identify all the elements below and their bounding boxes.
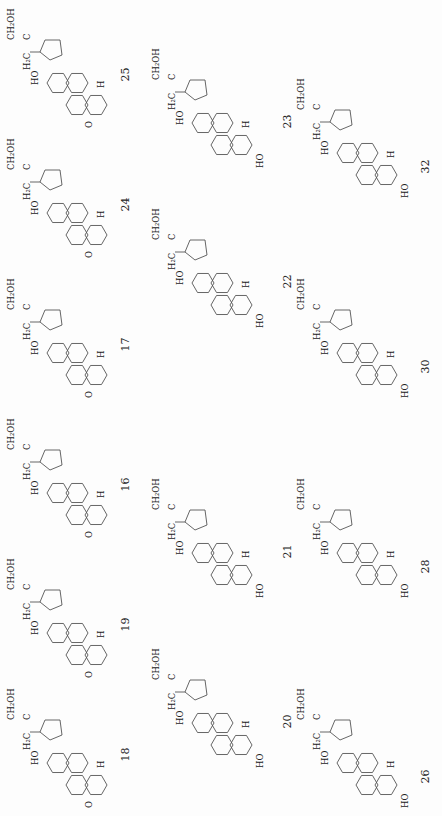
c20-label: C <box>312 103 322 110</box>
h5-label: H <box>96 211 106 218</box>
c20-label: C <box>22 713 32 720</box>
hydroxyl-3-label: HO <box>255 154 265 168</box>
structure-drawing: CH₂OHCH₂CHOHOH <box>290 680 440 816</box>
h5-label: H <box>96 491 106 498</box>
c20-label: C <box>22 33 32 40</box>
steroid-structure-32: CH₂OHCH₂CHOHOH32 <box>290 70 440 206</box>
ketone-label: O <box>84 801 94 808</box>
h5-label: H <box>96 351 106 358</box>
steroid-structure-17: CH₂OHCH₂CHOOH17 <box>0 270 150 406</box>
ch2oh-label: CH₂OH <box>151 48 161 80</box>
h5-label: H <box>241 721 251 728</box>
ch2oh-label: CH₂OH <box>296 478 306 510</box>
ch2oh-label: CH₂OH <box>296 688 306 720</box>
c18-hydroxyl-label: HO <box>30 751 40 765</box>
h5-label: H <box>386 551 396 558</box>
c20-label: C <box>312 503 322 510</box>
ketone-label: O <box>84 121 94 128</box>
c18-label: H₂C <box>22 53 32 70</box>
hydroxyl-3-label: HO <box>400 184 410 198</box>
h5-label: H <box>96 761 106 768</box>
structure-drawing: CH₂OHCH₂CHOHOH <box>145 200 295 336</box>
steroid-structure-18: CH₂OHCH₂CHOOH18 <box>0 680 150 816</box>
structure-drawing: CH₂OHCH₂CHOHOH <box>290 470 440 606</box>
c18-label: H₂C <box>22 603 32 620</box>
steroid-structure-22: CH₂OHCH₂CHOHOH22 <box>145 200 295 336</box>
c18-hydroxyl-label: HO <box>30 621 40 635</box>
c18-label: H₂C <box>22 183 32 200</box>
ketone-label: O <box>84 531 94 538</box>
c20-label: C <box>22 303 32 310</box>
structure-drawing: CH₂OHCH₂CHOHOH <box>145 640 295 776</box>
ch2oh-label: CH₂OH <box>6 8 16 40</box>
ch2oh-label: CH₂OH <box>296 78 306 110</box>
compound-number: 24 <box>119 198 132 212</box>
c20-label: C <box>167 73 177 80</box>
c18-hydroxyl-label: HO <box>175 111 185 125</box>
c18-label: H₂C <box>312 123 322 140</box>
compound-number: 16 <box>119 478 132 492</box>
c18-hydroxyl-label: HO <box>320 541 330 555</box>
steroid-structure-19: CH₂OHCH₂CHOOH19 <box>0 550 150 686</box>
h5-label: H <box>386 351 396 358</box>
h5-label: H <box>96 631 106 638</box>
ch2oh-label: CH₂OH <box>6 138 16 170</box>
c20-label: C <box>312 713 322 720</box>
compound-number: 18 <box>119 748 132 762</box>
ch2oh-label: CH₂OH <box>6 688 16 720</box>
steroid-structure-16: CH₂OHCH₂CHOOH16 <box>0 410 150 546</box>
ch2oh-label: CH₂OH <box>296 278 306 310</box>
c18-hydroxyl-label: HO <box>320 141 330 155</box>
compound-number: 32 <box>419 160 432 174</box>
c18-label: H₂C <box>167 93 177 110</box>
hydroxyl-3-label: HO <box>255 314 265 328</box>
h5-label: H <box>96 81 106 88</box>
compound-number: 25 <box>119 68 132 82</box>
c18-hydroxyl-label: HO <box>30 341 40 355</box>
steroid-structure-25: CH₂OHCH₂CHOOH25 <box>0 0 150 136</box>
ketone-label: O <box>84 251 94 258</box>
c18-hydroxyl-label: HO <box>30 71 40 85</box>
steroid-structure-21: CH₂OHCH₂CHOHOH21 <box>145 470 295 606</box>
compound-number: 17 <box>119 338 132 352</box>
ch2oh-label: CH₂OH <box>6 418 16 450</box>
hydroxyl-3-label: HO <box>255 584 265 598</box>
ch2oh-label: CH₂OH <box>151 648 161 680</box>
c18-label: H₂C <box>167 253 177 270</box>
steroid-structure-24: CH₂OHCH₂CHOOH24 <box>0 130 150 266</box>
c18-label: H₂C <box>22 463 32 480</box>
c18-label: H₂C <box>312 733 322 750</box>
c20-label: C <box>22 163 32 170</box>
c18-hydroxyl-label: HO <box>320 341 330 355</box>
ketone-label: O <box>84 391 94 398</box>
c18-hydroxyl-label: HO <box>320 751 330 765</box>
ch2oh-label: CH₂OH <box>6 278 16 310</box>
hydroxyl-3-label: HO <box>400 584 410 598</box>
c20-label: C <box>312 303 322 310</box>
figure-page: CH₂OHCH₂CHOOH25CH₂OHCH₂CHOOH24CH₂OHCH₂CH… <box>0 0 442 816</box>
compound-number: 26 <box>419 770 432 784</box>
structure-drawing: CH₂OHCH₂CHOHOH <box>145 40 295 176</box>
h5-label: H <box>241 551 251 558</box>
c20-label: C <box>167 673 177 680</box>
c18-label: H₂C <box>312 523 322 540</box>
c18-label: H₂C <box>22 733 32 750</box>
c20-label: C <box>22 583 32 590</box>
hydroxyl-3-label: HO <box>400 384 410 398</box>
c18-hydroxyl-label: HO <box>30 481 40 495</box>
compound-number: 19 <box>119 618 132 632</box>
h5-label: H <box>386 761 396 768</box>
c18-label: H₂C <box>22 323 32 340</box>
ketone-label: O <box>84 671 94 678</box>
ch2oh-label: CH₂OH <box>6 558 16 590</box>
hydroxyl-3-label: HO <box>400 794 410 808</box>
c18-hydroxyl-label: HO <box>175 541 185 555</box>
hydroxyl-3-label: HO <box>255 754 265 768</box>
structure-drawing: CH₂OHCH₂CHOHOH <box>290 70 440 206</box>
steroid-structure-26: CH₂OHCH₂CHOHOH26 <box>290 680 440 816</box>
c18-label: H₂C <box>167 693 177 710</box>
c18-hydroxyl-label: HO <box>175 271 185 285</box>
c20-label: C <box>167 503 177 510</box>
structure-drawing: CH₂OHCH₂CHOHOH <box>290 270 440 406</box>
steroid-structure-28: CH₂OHCH₂CHOHOH28 <box>290 470 440 606</box>
